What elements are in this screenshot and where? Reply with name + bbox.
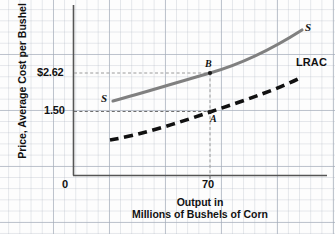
y-tick-label-150: 1.50 (44, 104, 65, 116)
x-axis-title: Output in Millions of Bushels of Corn (73, 196, 327, 220)
x-tick-label-70: 70 (202, 178, 214, 190)
lrac-curve-label: LRAC (296, 56, 327, 68)
y-axis-title: Price, Average Cost per Bushel (16, 1, 28, 161)
data-point-b-label: B (205, 58, 212, 69)
data-point-b-marker (208, 71, 212, 75)
y-tick-label-262: $2.62 (37, 66, 64, 78)
supply-curve-label-right: S (305, 21, 311, 33)
lrac-curve (110, 77, 302, 140)
origin-label: 0 (62, 178, 68, 190)
x-axis-title-line2: Millions of Bushels of Corn (73, 208, 327, 220)
supply-curve-label-left: S (101, 92, 107, 104)
x-axis-title-line1: Output in (73, 196, 327, 208)
data-point-a-label: A (210, 113, 217, 124)
